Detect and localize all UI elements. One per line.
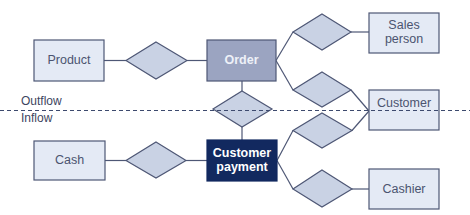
relationship-order-payment[interactable] <box>213 91 272 127</box>
connector-order-customerdiamond <box>276 61 293 91</box>
entity-product[interactable]: Product <box>34 40 104 81</box>
rea-diagram: Product Order Sales person Customer Cash <box>0 0 470 215</box>
entity-label: Cashier <box>382 182 425 196</box>
entity-label: payment <box>216 160 268 174</box>
relationship-order-salesperson[interactable] <box>293 14 351 50</box>
connector-payment-cashierdiamond <box>277 161 293 190</box>
relationship-payment-cashier[interactable] <box>293 170 352 207</box>
entity-customer-payment[interactable]: Customer payment <box>207 140 277 181</box>
entity-label: Customer <box>213 146 271 160</box>
entity-cashier[interactable]: Cashier <box>369 169 439 209</box>
entity-label: Order <box>224 53 258 67</box>
relationship-cash-payment[interactable] <box>126 142 186 178</box>
relationship-product-order[interactable] <box>126 42 187 79</box>
connector-order-salesdiamond <box>276 32 293 61</box>
entity-label: Cash <box>55 153 84 167</box>
entity-label: Customer <box>377 96 431 110</box>
connector-customerdiamond2-customer <box>352 111 369 131</box>
entity-order[interactable]: Order <box>207 40 276 81</box>
connector-payment-customerdiamond2 <box>277 131 293 161</box>
relationship-order-customer[interactable] <box>293 72 351 107</box>
entity-label: Sales <box>388 18 419 32</box>
entity-label: person <box>385 32 423 46</box>
entity-label: Product <box>47 53 91 67</box>
entity-sales-person[interactable]: Sales person <box>369 13 439 53</box>
diagram-canvas: Product Order Sales person Customer Cash <box>0 0 470 215</box>
entity-cash[interactable]: Cash <box>34 141 105 180</box>
inflow-label: Inflow <box>21 111 53 125</box>
relationship-payment-customer[interactable] <box>293 113 352 148</box>
outflow-label: Outflow <box>21 94 62 108</box>
connector-customerdiamond-customer <box>351 90 369 111</box>
